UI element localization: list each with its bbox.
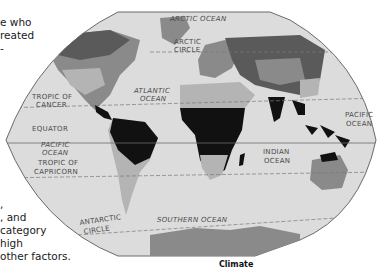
label-equator: EQUATOR bbox=[32, 125, 68, 133]
map-caption: Climate bbox=[219, 260, 253, 269]
label-arctic-circle-2: CIRCLE bbox=[174, 46, 200, 54]
label-pacific-ocean-east-2: OCEAN bbox=[346, 120, 372, 128]
north-africa bbox=[180, 82, 255, 112]
label-tropic-of-capricorn-2: CAPRICORN bbox=[34, 168, 78, 176]
label-arctic-ocean: ARCTIC OCEAN bbox=[169, 15, 227, 23]
label-pacific-ocean-west: PACIFIC bbox=[41, 141, 70, 149]
label-atlantic-ocean-2: OCEAN bbox=[140, 95, 167, 103]
label-tropic-of-cancer-2: CANCER bbox=[36, 101, 67, 109]
label-indian-ocean-2: OCEAN bbox=[264, 157, 290, 165]
label-arctic-circle: ARCTIC bbox=[174, 38, 201, 46]
label-pacific-ocean-east: PACIFIC bbox=[345, 111, 373, 119]
world-climate-map: ARCTIC OCEAN ARCTIC CIRCLE TROPIC OF CAN… bbox=[0, 0, 382, 273]
label-tropic-of-cancer: TROPIC OF bbox=[31, 93, 72, 101]
label-pacific-ocean-west-2: OCEAN bbox=[42, 149, 69, 157]
label-indian-ocean: INDIAN bbox=[263, 148, 290, 156]
label-southern-ocean: SOUTHERN OCEAN bbox=[157, 216, 228, 224]
label-tropic-of-capricorn: TROPIC OF bbox=[37, 159, 78, 167]
label-atlantic-ocean: ATLANTIC bbox=[133, 87, 170, 95]
